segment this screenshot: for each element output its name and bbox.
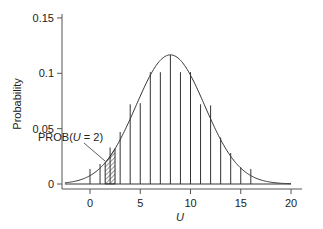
x-ticks: 05101520 <box>87 189 297 209</box>
x-tick-label: 15 <box>235 197 247 209</box>
x-axis-title: U <box>176 211 184 223</box>
y-tick-label: 0.15 <box>33 12 54 24</box>
chart-canvas: 00.050.10.15 05101520 PROB(U = 2) Probab… <box>0 0 323 229</box>
annotation-label: PROB(U = 2) <box>38 131 103 143</box>
y-tick-label: 0 <box>48 178 54 190</box>
x-tick-label: 10 <box>184 197 196 209</box>
annotation-leader-line <box>84 143 105 161</box>
x-tick-label: 5 <box>137 197 143 209</box>
prob-u-2-annotation: PROB(U = 2) <box>38 131 105 161</box>
normal-curve <box>65 55 291 184</box>
y-axis-title: Probability <box>11 78 23 130</box>
axes: 00.050.10.15 05101520 <box>33 12 302 209</box>
probability-sticks <box>65 55 291 184</box>
x-tick-label: 0 <box>87 197 93 209</box>
probability-chart: 00.050.10.15 05101520 PROB(U = 2) Probab… <box>0 0 323 229</box>
y-tick-label: 0.1 <box>39 67 54 79</box>
x-tick-label: 20 <box>285 197 297 209</box>
y-ticks: 00.050.10.15 <box>33 12 62 190</box>
plot-area <box>65 55 291 184</box>
